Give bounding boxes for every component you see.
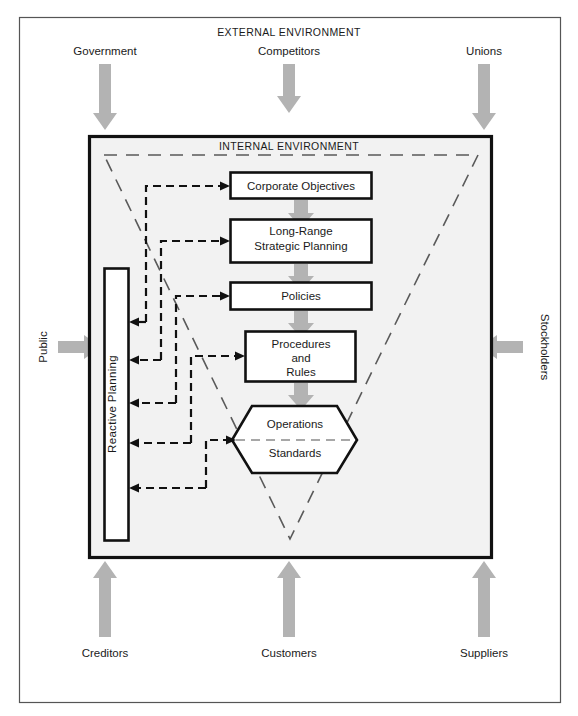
node-label-procedures-line2: and <box>291 352 310 364</box>
actor-label-suppliers: Suppliers <box>460 647 508 659</box>
node-label-policies: Policies <box>281 290 321 302</box>
node-label-operations: Operations <box>267 418 324 430</box>
node-label-procedures-line3: Rules <box>286 366 316 378</box>
strategic-planning-diagram: EXTERNAL ENVIRONMENT Government Competit… <box>0 0 578 716</box>
node-label-procedures-line1: Procedures <box>272 338 331 350</box>
figure-canvas: EXTERNAL ENVIRONMENT Government Competit… <box>0 0 578 716</box>
actor-label-customers: Customers <box>261 647 317 659</box>
node-label-standards: Standards <box>269 447 322 459</box>
actor-label-government: Government <box>73 45 137 57</box>
node-operations-standards[interactable] <box>232 406 357 473</box>
actor-label-stockholders: Stockholders <box>539 314 551 381</box>
node-label-reactive-planning: Reactive Planning <box>106 355 118 453</box>
node-label-long-range-line2: Strategic Planning <box>254 240 347 252</box>
external-environment-label: EXTERNAL ENVIRONMENT <box>217 26 361 38</box>
actor-label-competitors: Competitors <box>258 45 320 57</box>
actor-label-public: Public <box>37 331 49 363</box>
actor-label-unions: Unions <box>466 45 502 57</box>
actor-label-creditors: Creditors <box>82 647 129 659</box>
node-label-long-range-line1: Long-Range <box>269 225 332 237</box>
internal-environment-label: INTERNAL ENVIRONMENT <box>219 140 359 152</box>
node-label-corporate-objectives: Corporate Objectives <box>247 180 355 192</box>
